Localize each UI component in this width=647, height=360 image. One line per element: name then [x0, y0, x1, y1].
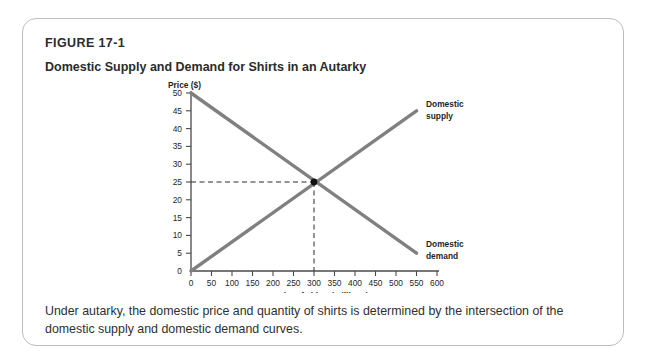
x-tick-label-250: 250 — [287, 278, 301, 288]
x-tick-label-350: 350 — [328, 278, 342, 288]
figure-caption: Under autarky, the domestic price and qu… — [45, 303, 611, 339]
domestic-demand-label-line1: Domestic — [426, 239, 464, 249]
y-tick-label-45: 45 — [173, 106, 183, 116]
figure-title: Domestic Supply and Demand for Shirts in… — [45, 59, 585, 76]
figure-header: FIGURE 17-1 Domestic Supply and Demand f… — [45, 35, 585, 76]
y-tick-label-50: 50 — [173, 88, 183, 98]
domestic-demand-label-line2: demand — [426, 251, 458, 261]
figure-card: FIGURE 17-1 Domestic Supply and Demand f… — [22, 18, 624, 346]
domestic-supply-curve — [191, 111, 417, 271]
domestic-supply-label-line2: supply — [426, 111, 453, 121]
domestic-supply-label-line1: Domestic — [426, 99, 464, 109]
y-tick-label-5: 5 — [177, 248, 182, 258]
y-axis-ticks — [186, 93, 191, 253]
y-tick-label-10: 10 — [173, 230, 183, 240]
figure-number: FIGURE 17-1 — [45, 35, 585, 51]
supply-demand-chart: Price ($) 50 — [23, 75, 623, 293]
domestic-demand-curve — [191, 93, 417, 253]
x-tick-label-100: 100 — [225, 278, 239, 288]
y-tick-label-30: 30 — [173, 159, 183, 169]
y-tick-label-15: 15 — [173, 213, 183, 223]
x-tick-label-550: 550 — [410, 278, 424, 288]
x-axis-title: Quantity of shirts (millions) — [260, 291, 369, 293]
y-tick-label-35: 35 — [173, 141, 183, 151]
x-tick-label-450: 450 — [369, 278, 383, 288]
y-tick-label-40: 40 — [173, 124, 183, 134]
y-tick-label-20: 20 — [173, 195, 183, 205]
x-tick-label-50: 50 — [207, 278, 217, 288]
y-tick-label-0: 0 — [177, 266, 182, 276]
x-tick-label-500: 500 — [389, 278, 403, 288]
x-tick-label-400: 400 — [348, 278, 362, 288]
x-tick-label-300: 300 — [307, 278, 321, 288]
x-tick-label-150: 150 — [246, 278, 260, 288]
equilibrium-point-marker — [311, 179, 318, 186]
x-tick-label-600: 600 — [430, 278, 444, 288]
figure-screenshot: FIGURE 17-1 Domestic Supply and Demand f… — [0, 0, 647, 360]
y-tick-label-25: 25 — [173, 177, 183, 187]
x-tick-label-0: 0 — [189, 278, 194, 288]
chart-area: Price ($) 50 — [23, 75, 623, 293]
x-tick-label-200: 200 — [266, 278, 280, 288]
x-axis-ticks — [191, 271, 437, 276]
